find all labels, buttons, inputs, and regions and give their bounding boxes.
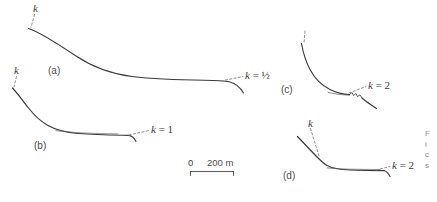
panel-b-k-label: k	[14, 65, 19, 76]
panel-d-k-leader	[311, 129, 320, 158]
panel-b-graphic	[13, 77, 150, 142]
panel-c-profile-curve	[302, 44, 350, 95]
panel-a-graphic	[29, 15, 244, 94]
panel-d-graphic	[298, 129, 391, 177]
scale-bar-start-label: 0	[188, 158, 193, 168]
caption-line: F	[425, 129, 437, 140]
panel-c-graphic	[302, 31, 377, 109]
panel-d-profile-curve	[298, 137, 385, 171]
panel-b-profile-curve	[13, 88, 137, 142]
panel-c-profile-tail	[362, 98, 377, 109]
panel-d-k-label: k	[308, 118, 313, 129]
panel-d-profile-tail	[384, 171, 390, 177]
profile-diagram	[0, 0, 437, 202]
caption-line: c	[425, 150, 437, 161]
panel-d-k-value-label: k = 2	[392, 160, 414, 171]
panel-c-k-value-label: k = 2	[368, 80, 390, 91]
panel-a-label: (a)	[48, 66, 60, 76]
panel-a-profile-curve	[29, 29, 244, 94]
panel-b-keq-leader	[129, 131, 149, 136]
panel-a-keq-leader	[221, 77, 243, 82]
panel-b-label: (b)	[34, 141, 46, 151]
figure-canvas: k (a) k = ½ k (b) k = 1 0 200 m (c) k = …	[0, 0, 437, 202]
scale-bar-graphic	[191, 172, 234, 176]
panel-b-k-leader	[14, 77, 17, 88]
caption-line: i	[425, 140, 437, 151]
caption-line: s	[425, 161, 437, 172]
panel-d-label: (d)	[283, 171, 295, 181]
scale-bar-end-label: 200 m	[207, 158, 233, 168]
panel-a-k-label: k	[33, 3, 38, 14]
clipped-caption-text: F i c s	[425, 129, 437, 175]
panel-c-knick-steps	[350, 93, 363, 99]
panel-c-keq-leader	[349, 87, 366, 94]
panel-c-k-leader	[304, 31, 305, 43]
panel-a-k-leader	[31, 15, 35, 28]
panel-d-keq-leader	[376, 167, 390, 171]
panel-a-k-value-label: k = ½	[245, 70, 270, 81]
panel-b-k-value-label: k = 1	[151, 124, 173, 135]
panel-c-label: (c)	[281, 85, 293, 95]
